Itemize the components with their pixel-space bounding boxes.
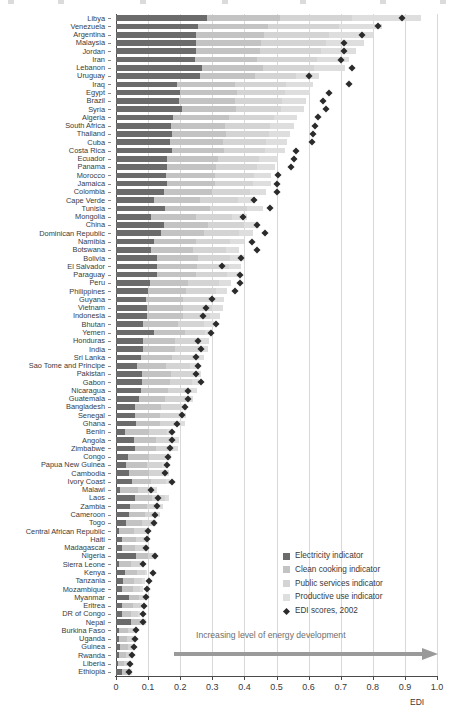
bar-segment-electricity [116,24,198,30]
x-axis-tick [244,676,245,680]
bar-row [116,73,437,79]
category-tick [108,432,111,433]
bar-segment-clean_cooking [179,98,235,104]
legend-diamond-icon [283,608,290,615]
category-tick [108,68,111,69]
category-label: Pakistan [77,370,105,377]
bar-segment-clean_cooking [196,40,262,46]
x-axis-tick [405,676,406,680]
bar-segment-electricity [116,255,157,261]
bar-segment-clean_cooking [119,628,128,634]
bar-segment-public_services [235,98,282,104]
bar-segment-clean_cooking [177,82,235,88]
bar-segment-productive_use [247,206,263,212]
cropped-artifact [300,0,306,4]
category-tick [108,482,111,483]
bar-row [116,206,437,212]
category-label: Namibia [78,238,105,245]
bar-segment-public_services [171,371,193,377]
bar-segment-clean_cooking [154,239,196,245]
bar-row [116,421,437,427]
bar-segment-electricity [116,280,150,286]
category-tick [108,242,111,243]
x-axis-tick [437,676,438,680]
bar-segment-electricity [116,115,173,121]
category-tick [108,523,111,524]
bar-row [116,288,437,294]
category-label: Gabon [83,379,105,386]
x-axis-tick-label: 0.1 [142,682,155,692]
bar-segment-clean_cooking [137,363,167,369]
bar-row [116,437,437,443]
category-tick [108,374,111,375]
bar-segment-electricity [116,570,125,576]
bar-segment-public_services [216,164,256,170]
category-tick [108,664,111,665]
category-tick [108,250,111,251]
category-tick [108,655,111,656]
bar-segment-productive_use [250,189,267,195]
category-label: Madagascar [64,544,105,551]
category-label: Malawi [82,486,105,493]
category-label: Cuba [87,139,105,146]
bar-segment-public_services [137,570,145,576]
category-tick [108,399,111,400]
bar-segment-electricity [116,57,195,63]
category-tick [108,217,111,218]
bar-segment-productive_use [165,495,169,501]
bar-segment-electricity [116,123,171,129]
bar-segment-electricity [116,379,142,385]
category-tick [108,324,111,325]
bar-segment-electricity [116,90,180,96]
chart-figure: LibyaVenezuelaArgentinaMalaysiaJordanIra… [0,0,457,715]
x-axis-tick-label: 0.7 [334,682,347,692]
category-tick [108,465,111,466]
category-tick [108,490,111,491]
bar-segment-clean_cooking [196,48,260,54]
bar-segment-public_services [260,48,321,54]
bar-segment-public_services [188,280,218,286]
bar-segment-public_services [226,131,269,137]
bar-segment-public_services [178,321,204,327]
bar-row [116,115,437,121]
bar-segment-clean_cooking [196,32,263,38]
bar-segment-productive_use [140,586,142,592]
legend-item: EDI scores, 2002 [283,607,383,615]
category-tick [108,391,111,392]
bar-segment-electricity [116,230,161,236]
bar-segment-productive_use [229,264,242,270]
bar-segment-electricity [116,40,196,46]
category-label: Iran [92,56,105,63]
bar-segment-public_services [218,156,259,162]
category-label: Ecuador [77,155,105,162]
legend-item: Productive use indicator [283,593,383,601]
bar-segment-public_services [229,115,274,121]
category-label: India [89,346,105,353]
bar-segment-public_services [236,106,281,112]
category-label: Bhutan [82,321,105,328]
bar-segment-public_services [215,173,254,179]
bar-segment-clean_cooking [129,470,149,476]
category-label: Guyana [79,296,105,303]
legend-label: Electricity indicator [295,552,363,560]
bar-segment-electricity [116,148,172,154]
bar-segment-clean_cooking [182,106,237,112]
bar-segment-public_services [257,57,316,63]
bar-segment-clean_cooking [143,346,174,352]
bar-segment-clean_cooking [164,189,212,195]
bar-segment-productive_use [352,15,421,21]
bar-segment-public_services [223,139,266,145]
bar-segment-public_services [134,528,145,534]
category-label: Peru [89,279,105,286]
bar-segment-clean_cooking [131,619,139,625]
category-label: Papua New Guinea [41,461,105,468]
category-label: Philippines [69,288,105,295]
gridline [405,14,406,676]
arrow-shaft [174,652,424,656]
bar-row [116,388,437,394]
bar-segment-electricity [116,429,125,435]
bar-segment-clean_cooking [135,413,160,419]
bar-segment-public_services [147,462,162,468]
bar-segment-public_services [134,578,142,584]
category-tick [108,498,111,499]
